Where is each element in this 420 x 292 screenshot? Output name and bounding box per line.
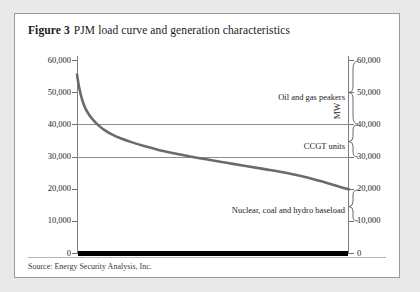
source-note: Source: Energy Security Analysis, Inc. [28, 262, 152, 271]
y-axis-left-label-10000: 10,000 [31, 215, 71, 225]
y-axis-left-label-40000: 40,000 [31, 119, 71, 129]
y-axis-left-label-60000: 60,000 [31, 55, 71, 65]
annotation-baseload-label: Nuclear, coal and hydro baseload [155, 205, 345, 215]
y-axis-left-label-50000: 50,000 [31, 87, 71, 97]
baseload-zero-bar [78, 251, 348, 256]
annotation-braces [349, 56, 389, 256]
brace-ccgt [349, 125, 358, 157]
annotation-ccgt-label: CCGT units [189, 141, 345, 151]
figure-title-text: PJM load curve and generation characteri… [74, 24, 290, 36]
brace-peakers [349, 61, 358, 124]
y-axis-left-label-30000: 30,000 [31, 151, 71, 161]
brace-baseload [349, 190, 358, 221]
figure-title: Figure 3PJM load curve and generation ch… [28, 24, 290, 36]
annotation-peakers-label: Oil and gas peakers [189, 92, 345, 102]
figure-number: Figure 3 [28, 24, 70, 36]
y-axis-left-label-20000: 20,000 [31, 183, 71, 193]
source-divider [28, 257, 386, 258]
figure-panel: Figure 3PJM load curve and generation ch… [14, 13, 400, 278]
plot-area [77, 60, 349, 254]
load-duration-curve [77, 60, 349, 254]
